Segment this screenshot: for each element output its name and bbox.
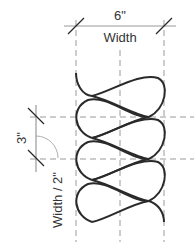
side-dimension (28, 105, 44, 172)
angle-arc (36, 136, 58, 158)
insulation-diagram: 6" Width 3" Width / 2" (0, 0, 194, 242)
top-dimension-value: 6" (114, 8, 126, 23)
top-dimension-label: Width (103, 30, 136, 45)
side-dimension-label: Width / 2" (50, 172, 65, 228)
side-dimension-value: 3" (14, 132, 29, 144)
